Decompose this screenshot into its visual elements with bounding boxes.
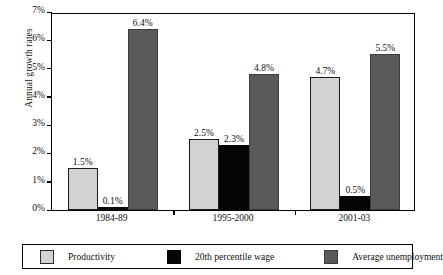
y-axis-tick-label: 0% bbox=[32, 203, 45, 213]
legend-item-20th-percentile-wage: 20th percentile wage bbox=[167, 245, 274, 268]
bar-value-label: 6.4% bbox=[121, 18, 165, 28]
bar bbox=[370, 54, 400, 210]
y-axis-tick-mark bbox=[47, 96, 52, 97]
legend-label-average-unemployment: Average unemployment bbox=[352, 252, 443, 262]
plot-area: 0%1%2%3%4%5%6%7%1.5%0.1%6.4%2.5%2.3%4.8%… bbox=[51, 13, 415, 211]
y-axis-tick-mark bbox=[47, 153, 52, 154]
y-axis-tick-label: 6% bbox=[32, 33, 45, 43]
legend-swatch-icon-average-unemployment bbox=[324, 250, 338, 264]
bar-value-label: 4.7% bbox=[303, 66, 347, 76]
y-axis-tick-label: 7% bbox=[32, 5, 45, 15]
legend-item-productivity: Productivity bbox=[40, 245, 115, 268]
legend-swatch-icon-20th-percentile-wage bbox=[167, 250, 181, 264]
bar bbox=[189, 139, 219, 210]
legend-label-20th-percentile-wage: 20th percentile wage bbox=[195, 252, 274, 262]
y-axis-tick-mark bbox=[47, 181, 52, 182]
legend-item-average-unemployment: Average unemployment bbox=[324, 245, 443, 268]
y-axis-tick-label: 2% bbox=[32, 146, 45, 156]
x-axis-category-label: 2001-03 bbox=[294, 213, 414, 223]
y-axis-tick-mark bbox=[47, 12, 52, 13]
y-axis-tick-label: 5% bbox=[32, 62, 45, 72]
bar bbox=[219, 145, 249, 210]
y-axis-tick-mark bbox=[47, 125, 52, 126]
y-axis-tick-mark bbox=[47, 68, 52, 69]
bar-value-label: 1.5% bbox=[61, 157, 105, 167]
bar bbox=[98, 207, 128, 210]
chart-legend: Productivity 20th percentile wage Averag… bbox=[22, 244, 413, 269]
y-axis-tick-mark bbox=[47, 40, 52, 41]
bar-value-label: 4.8% bbox=[242, 63, 286, 73]
legend-label-productivity: Productivity bbox=[68, 252, 115, 262]
bar-value-label: 5.5% bbox=[363, 43, 407, 53]
bar bbox=[340, 196, 370, 210]
y-axis-tick-label: 3% bbox=[32, 118, 45, 128]
x-axis-category-label: 1984-89 bbox=[52, 213, 172, 223]
bar bbox=[249, 74, 279, 210]
bar bbox=[128, 29, 158, 210]
y-axis-tick-label: 4% bbox=[32, 90, 45, 100]
legend-swatch-icon-productivity bbox=[40, 250, 54, 264]
y-axis-tick-label: 1% bbox=[32, 175, 45, 185]
x-axis-category-label: 1995-2000 bbox=[173, 213, 293, 223]
y-axis-tick-mark bbox=[47, 210, 52, 211]
